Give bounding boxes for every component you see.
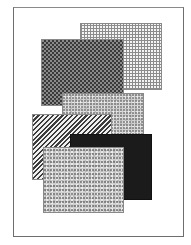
speckle-pattern-rect-bottom [43, 147, 124, 213]
